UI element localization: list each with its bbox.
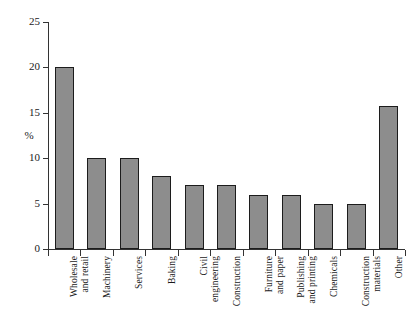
y-tick-25 [43,22,49,23]
category-label: Wholesale and retail [69,256,90,336]
y-axis-line [48,22,49,250]
x-tick-9 [340,250,341,256]
category-label: Publishing and printing [296,256,317,336]
bar [282,195,301,249]
y-tick-20 [43,67,49,68]
bar [152,176,171,249]
category-label: Construction [232,256,243,336]
bar [217,185,236,249]
x-tick-2 [113,250,114,256]
category-label: Services [134,256,145,336]
x-tick-6 [243,250,244,256]
x-tick-11 [405,250,406,256]
y-axis-label: % [18,129,40,141]
bar [379,106,398,249]
bar [185,185,204,249]
x-tick-4 [178,250,179,256]
bar [120,158,139,249]
x-tick-3 [145,250,146,256]
y-tick-label-0: 0 [14,243,40,254]
bar [55,67,74,249]
bar-chart: % 0510152025 Wholesale and retailMachine… [0,0,419,336]
bar [249,195,268,249]
x-axis-line [48,249,405,250]
y-tick-label-15: 15 [14,107,40,118]
category-label: Other [394,256,405,336]
x-tick-0 [48,250,49,256]
y-tick-5 [43,204,49,205]
y-tick-15 [43,113,49,114]
bar [347,204,366,249]
y-tick-10 [43,158,49,159]
y-tick-label-25: 25 [14,16,40,27]
category-label: Baking [167,256,178,336]
bar [314,204,333,249]
category-label: Construction materials [361,256,382,336]
category-label: Civil engineering [199,256,220,336]
bar [87,158,106,249]
category-label: Machinery [102,256,113,336]
y-tick-label-10: 10 [14,152,40,163]
y-tick-label-5: 5 [14,198,40,209]
category-label: Chemicals [329,256,340,336]
y-tick-label-20: 20 [14,61,40,72]
category-label: Furniture and paper [264,256,285,336]
